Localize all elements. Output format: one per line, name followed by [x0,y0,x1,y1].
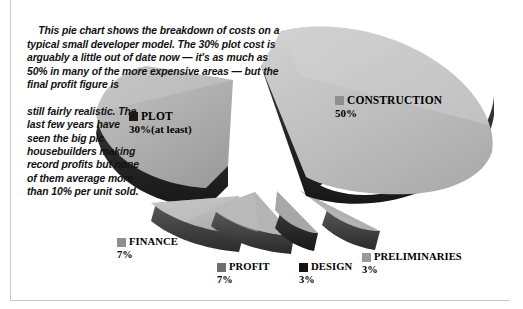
pie-chart-figure: This pie chart shows the breakdown of co… [0,0,523,309]
preliminaries-swatch-icon [362,253,371,262]
plot-swatch-icon [129,112,138,121]
design-value: 3% [299,274,352,287]
profit-swatch-icon [217,263,226,272]
design-swatch-icon [299,263,308,272]
preliminaries-name: PRELIMINARIES [374,251,462,264]
plot-name: PLOT [141,110,173,123]
finance-value: 7% [117,249,178,262]
design-name: DESIGN [311,261,352,274]
label-construction: CONSTRUCTION 50% [335,94,442,119]
profit-value: 7% [217,274,270,287]
label-profit: PROFIT 7% [217,261,270,286]
caption-continued: still fairly realistic. The last few yea… [27,105,139,199]
construction-value: 50% [335,107,442,120]
preliminaries-value: 3% [362,264,462,277]
label-plot: PLOT 30%(at least) [129,110,192,135]
plot-value: 30%(at least) [129,123,192,136]
construction-swatch-icon [335,96,344,105]
label-preliminaries: PRELIMINARIES 3% [362,251,462,276]
construction-name: CONSTRUCTION [347,94,442,107]
label-finance: FINANCE 7% [117,236,178,261]
finance-name: FINANCE [129,236,178,249]
label-design: DESIGN 3% [299,261,352,286]
profit-name: PROFIT [229,261,270,274]
finance-swatch-icon [117,238,126,247]
caption-main: This pie chart shows the breakdown of co… [27,25,282,90]
